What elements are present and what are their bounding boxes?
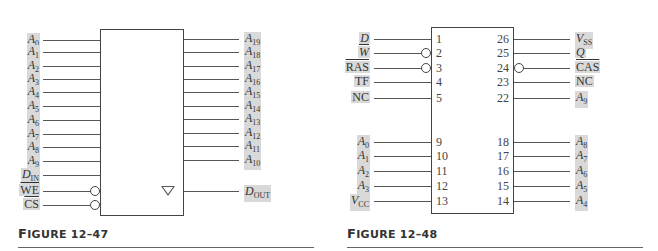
pin-label-cs: CS (23, 198, 40, 210)
pin-line-vcc (374, 201, 431, 202)
pin-label-nc: NC (351, 91, 370, 103)
pin-line-a5 (43, 106, 100, 107)
pin-line-a6 (43, 120, 100, 121)
pin-label-a10: A10 (244, 153, 261, 170)
inversion-bubble-icon (90, 200, 100, 210)
pin-line-w (374, 53, 421, 54)
inversion-bubble-icon (90, 186, 100, 196)
pin-number: 5 (436, 92, 442, 104)
pin-number: 24 (497, 62, 509, 74)
pin-number: 9 (436, 136, 442, 148)
pin-line-d (374, 39, 431, 40)
pin-line-a5 (514, 186, 570, 187)
pin-number: 11 (436, 165, 448, 177)
pin-number: 25 (497, 47, 509, 59)
pin-line-a0 (374, 142, 431, 143)
pin-line-a8 (514, 142, 570, 143)
pin-line-a10 (184, 160, 239, 161)
pin-line-a4 (43, 92, 100, 93)
pin-label-cas: CAS (575, 61, 600, 73)
pin-label-w: W (358, 46, 370, 58)
pin-label-a4: A4 (575, 194, 588, 211)
pin-line-tf (374, 82, 431, 83)
pin-line-a17 (184, 66, 239, 67)
pin-line-a0 (43, 40, 100, 41)
pin-number: 4 (436, 76, 442, 88)
pin-label-q: Q (575, 46, 586, 58)
figure-caption: FIGURE 12–47 (18, 226, 108, 241)
pin-line-a13 (184, 119, 239, 120)
pin-number: 12 (436, 180, 448, 192)
pin-line-a12 (184, 133, 239, 134)
pin-label-tf: TF (354, 75, 370, 87)
pin-line-a7 (514, 156, 570, 157)
tri-state-output-icon (161, 186, 175, 196)
pin-line-a6 (514, 171, 570, 172)
pin-line-q (514, 53, 570, 54)
dout-line (184, 191, 239, 192)
pin-line-a14 (184, 106, 239, 107)
pin-label-ras: RAS (345, 61, 370, 73)
pin-number: 16 (497, 165, 509, 177)
pin-label-vcc: VCC (350, 194, 370, 211)
pin-number: 10 (436, 150, 448, 162)
inversion-bubble-icon (514, 63, 524, 73)
pin-line-vss (514, 39, 570, 40)
pin-line-a9 (514, 98, 570, 99)
pin-line-a1 (43, 52, 100, 53)
pin-line-we (43, 191, 90, 192)
pin-number: 14 (497, 195, 509, 207)
pin-line-a1 (374, 156, 431, 157)
pin-label-d: D (359, 32, 370, 44)
pin-number: 18 (497, 136, 509, 148)
pin-number: 15 (497, 180, 509, 192)
pin-line-ras (374, 68, 421, 69)
pin-line-a4 (514, 201, 570, 202)
pin-line-a9 (43, 161, 100, 162)
pin-line-nc (374, 98, 431, 99)
pin-line-a8 (43, 147, 100, 148)
pin-line-a2 (374, 171, 431, 172)
pin-label-we: WE (19, 184, 40, 196)
pin-line-a16 (184, 79, 239, 80)
pin-number: 17 (497, 150, 509, 162)
pin-line-nc (514, 82, 570, 83)
pin-line-a15 (184, 92, 239, 93)
pin-number: 13 (436, 195, 448, 207)
pin-line-a18 (184, 52, 239, 53)
inversion-bubble-icon (421, 48, 431, 58)
pin-label-a9: A9 (575, 91, 588, 108)
pin-line-a3 (374, 186, 431, 187)
pin-number: 2 (436, 47, 442, 59)
pin-number: 23 (497, 76, 509, 88)
pin-line-a2 (43, 66, 100, 67)
pin-label-nc: NC (575, 75, 594, 87)
caption-rule (18, 247, 314, 248)
pin-number: 1 (436, 33, 442, 45)
pin-number: 3 (436, 62, 442, 74)
pin-line-din (43, 175, 100, 176)
pin-line-a19 (184, 39, 239, 40)
pin-number: 26 (497, 33, 509, 45)
caption-rule (347, 247, 643, 248)
pin-line-a11 (184, 146, 239, 147)
pin-label-dout: DOUT (244, 185, 271, 202)
pin-line-cas (524, 68, 570, 69)
pin-number: 22 (497, 92, 509, 104)
figure-caption: FIGURE 12–48 (347, 226, 437, 241)
inversion-bubble-icon (421, 63, 431, 73)
pin-line-a7 (43, 134, 100, 135)
pin-line-a3 (43, 79, 100, 80)
pin-line-cs (43, 205, 90, 206)
